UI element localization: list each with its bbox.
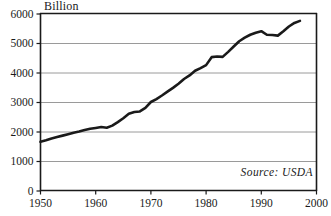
y-tick-label: 5000 [11, 37, 34, 49]
y-tick-group: 0100020003000400050006000 [11, 8, 41, 197]
y-tick-label: 3000 [11, 96, 34, 108]
data-line [41, 21, 300, 142]
data-series-group [41, 21, 300, 142]
line-chart-canvas: 0100020003000400050006000 19501960197019… [0, 0, 331, 216]
y-tick-label: 2000 [11, 126, 34, 138]
chart-figure: Billion 0100020003000400050006000 195019… [0, 0, 331, 216]
y-tick-label: 1000 [11, 155, 34, 167]
x-tick-group: 195019601970198019902000 [29, 191, 328, 209]
y-tick-label: 4000 [11, 67, 34, 79]
x-tick-label: 1950 [29, 197, 52, 209]
x-tick-label: 1970 [139, 197, 162, 209]
y-tick-label: 0 [28, 185, 34, 197]
y-tick-label: 6000 [11, 8, 34, 20]
x-tick-label: 1960 [84, 197, 107, 209]
x-tick-label: 2000 [305, 197, 328, 209]
x-tick-label: 1990 [250, 197, 273, 209]
x-tick-label: 1980 [195, 197, 218, 209]
gridline-group [41, 44, 317, 162]
source-annotation: Source: USDA [241, 166, 313, 178]
